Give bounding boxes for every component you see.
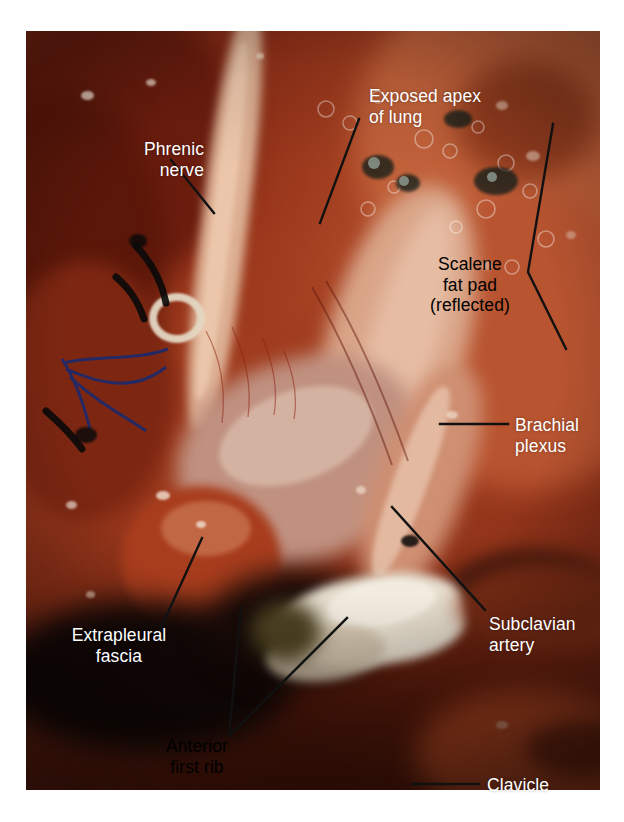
- surgical-photograph: [26, 31, 600, 790]
- figure-root: Phrenic nerve Exposed apex of lung Scale…: [0, 0, 624, 822]
- photo-top-bottom-shade: [26, 31, 600, 790]
